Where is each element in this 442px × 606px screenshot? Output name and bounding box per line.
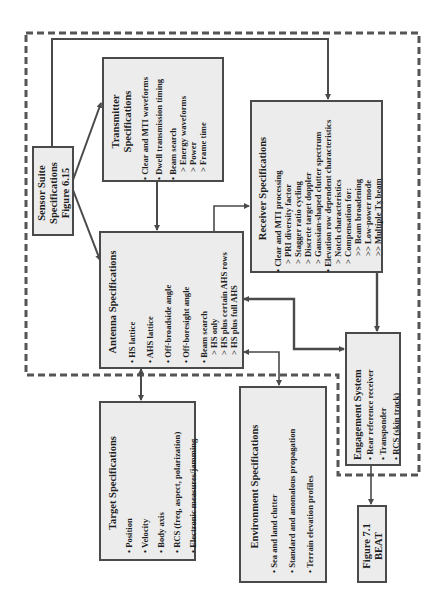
transmitter-subitem: > Frame time xyxy=(198,63,208,180)
engagement-box: Engagement System • Rear reference recei… xyxy=(345,332,401,466)
environment-box: Environment Specifications • Sea and lan… xyxy=(239,386,327,583)
antenna-item: • HS lattice xyxy=(127,241,137,363)
receiver-item: • Clear and MTI processing xyxy=(273,105,283,272)
environment-item: • Terrain elevation profiles xyxy=(305,400,315,573)
sensor-suite-line: Figure 6.15 xyxy=(60,148,72,238)
antenna-title: Antenna Specifications xyxy=(107,241,119,363)
engagement-item: • Rear reference receiver xyxy=(365,342,375,460)
transmitter-title: Specifications xyxy=(122,63,134,180)
transmitter-item: • Dwell transmission timing xyxy=(154,63,164,180)
receiver-subsubitem: >> Low-power mode xyxy=(363,105,373,272)
transmitter-item: • Clear and MTI waveforms xyxy=(140,63,150,180)
receiver-subsubitem: >> Beam broadening xyxy=(353,105,363,272)
target-item: • Position xyxy=(124,413,134,553)
receiver-subitem: > Notch characteristics xyxy=(333,105,343,272)
target-item: • RCS (freq, aspect, polarization) xyxy=(172,413,182,553)
target-box: Target Specifications • Position • Veloc… xyxy=(99,401,196,561)
engagement-title: Engagement System xyxy=(352,342,364,460)
receiver-subitem: > Gaussian-shaped clutter spectrum xyxy=(313,105,323,272)
antenna-subitem: > HS plus full AHS xyxy=(229,241,239,363)
target-item: • Electronic measures/jamming xyxy=(188,413,198,553)
environment-title: Environment Specifications xyxy=(249,400,261,573)
sensor-suite-line: Specifications xyxy=(48,148,60,238)
antenna-subitem: > HS plus certain AHS rows xyxy=(219,241,229,363)
antenna-item: • AHS lattice xyxy=(145,241,155,363)
arrow-sensor-to-transmitter xyxy=(73,103,101,180)
engagement-item: • RCS (skin track) xyxy=(391,342,401,460)
beat-box: Figure 7.1 BEAT xyxy=(357,505,387,583)
receiver-subitem: > Stagger ratio cycling xyxy=(293,105,303,272)
antenna-box: Antenna Specifications • HS lattice • AH… xyxy=(99,231,244,369)
arrow-antenna-environment xyxy=(244,352,279,385)
diagram-canvas: Sensor Suite Specifications Figure 6.15 … xyxy=(0,0,442,606)
receiver-item: • Elevation row dependent characteristic… xyxy=(323,105,333,272)
environment-item: • Standard and anomalous propagation xyxy=(287,400,297,573)
transmitter-item: • Beam search xyxy=(168,63,178,180)
transmitter-title: Transmitter xyxy=(110,63,122,180)
arrow-antenna-to-receiver xyxy=(214,206,249,231)
antenna-item: • Off-broadside angle xyxy=(163,241,173,363)
transmitter-subitem: > Energy waveforms xyxy=(178,63,188,180)
antenna-item: • Beam search xyxy=(199,241,209,363)
transmitter-subitem: > Power xyxy=(188,63,198,180)
receiver-title: Receiver Specifications xyxy=(257,105,269,272)
arrow-sensor-to-antenna xyxy=(73,190,100,260)
receiver-subitem: > PRI diversity factor xyxy=(283,105,293,272)
beat-line: Figure 7.1 xyxy=(361,507,373,585)
target-item: • Body axis xyxy=(156,413,166,553)
receiver-subsubitem: >> Multiple Tx beam xyxy=(373,105,383,272)
engagement-item: • Transponder xyxy=(378,342,388,460)
sensor-suite-box: Sensor Suite Specifications Figure 6.15 xyxy=(32,146,74,236)
target-title: Target Specifications xyxy=(107,413,119,553)
arrow-engagement-antenna xyxy=(244,299,344,349)
receiver-subitem: > Compensation for: xyxy=(343,105,353,272)
receiver-subitem: > Discrete target doppler xyxy=(303,105,313,272)
antenna-subitem: > HS only xyxy=(209,241,219,363)
sensor-suite-line: Sensor Suite xyxy=(36,148,48,238)
antenna-item: • Off-boresight angle xyxy=(181,241,191,363)
target-item: • Velocity xyxy=(140,413,150,553)
environment-item: • Sea and land clutter xyxy=(269,400,279,573)
transmitter-box: Transmitter Specifications • Clear and M… xyxy=(102,57,224,182)
beat-line: BEAT xyxy=(373,507,385,585)
receiver-box: Receiver Specifications • Clear and MTI … xyxy=(250,100,383,273)
